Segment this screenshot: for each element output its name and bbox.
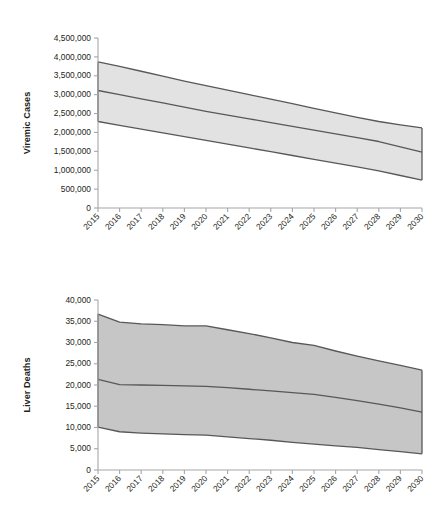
- liver-deaths-x-tick-label: 2027: [340, 473, 360, 493]
- liver-deaths-x-tick-label: 2030: [405, 473, 425, 493]
- liver-deaths-x-axis: 2015201620172018201920202021202220232024…: [81, 470, 425, 494]
- liver-deaths-y-tick-label: 10,000: [65, 422, 91, 432]
- liver-deaths-x-tick-label: 2024: [276, 473, 296, 493]
- liver-deaths-x-tick-label: 2023: [254, 473, 274, 493]
- viremic-cases-plot: [98, 62, 422, 180]
- liver-deaths-x-tick-label: 2016: [103, 473, 123, 493]
- viremic-cases-y-tick-label: 1,500,000: [54, 146, 92, 156]
- liver-deaths-y-tick-label: 20,000: [65, 380, 91, 390]
- viremic-cases-x-tick-label: 2019: [168, 211, 188, 231]
- viremic-cases-x-tick-label: 2016: [103, 211, 123, 231]
- figure-container: 0500,0001,000,0001,500,0002,000,0002,500…: [0, 0, 447, 524]
- viremic-cases-y-tick-label: 4,000,000: [54, 52, 92, 62]
- liver-deaths-y-tick-label: 35,000: [65, 316, 91, 326]
- liver-deaths-y-tick-label: 40,000: [65, 295, 91, 305]
- viremic-cases-y-tick-label: 2,000,000: [54, 127, 92, 137]
- liver-deaths-x-tick-label: 2022: [232, 473, 252, 493]
- viremic-cases-x-tick-label: 2018: [146, 211, 166, 231]
- liver-deaths-x-tick-label: 2021: [211, 473, 231, 493]
- viremic-cases-x-tick-label: 2028: [362, 211, 382, 231]
- viremic-cases-y-tick-label: 1,000,000: [54, 165, 92, 175]
- viremic-cases-x-tick-label: 2026: [319, 211, 339, 231]
- liver-deaths-y-tick-label: 15,000: [65, 401, 91, 411]
- viremic-cases-chart-svg: 0500,0001,000,0001,500,0002,000,0002,500…: [0, 0, 447, 262]
- viremic-cases-x-tick-label: 2022: [232, 211, 252, 231]
- viremic-cases-y-tick-label: 3,500,000: [54, 70, 92, 80]
- liver-deaths-y-tick-label: 5,000: [70, 443, 91, 453]
- viremic-cases-y-tick-label: 0: [86, 203, 91, 213]
- liver-deaths-y-tick-label: 0: [86, 465, 91, 475]
- viremic-cases-x-tick-label: 2023: [254, 211, 274, 231]
- liver-deaths-plot: [98, 314, 422, 454]
- liver-deaths-x-tick-label: 2017: [124, 473, 144, 493]
- liver-deaths-x-tick-label: 2019: [168, 473, 188, 493]
- liver-deaths-x-tick-label: 2018: [146, 473, 166, 493]
- viremic-cases-y-axis: 0500,0001,000,0001,500,0002,000,0002,500…: [54, 33, 98, 213]
- viremic-cases-x-tick-label: 2015: [81, 211, 101, 231]
- liver-deaths-y-axis: 05,00010,00015,00020,00025,00030,00035,0…: [65, 295, 98, 475]
- chart-panel-liver-deaths: 05,00010,00015,00020,00025,00030,00035,0…: [0, 262, 447, 524]
- chart-panel-viremic-cases: 0500,0001,000,0001,500,0002,000,0002,500…: [0, 0, 447, 262]
- viremic-cases-x-tick-label: 2024: [276, 211, 296, 231]
- liver-deaths-chart-svg: 05,00010,00015,00020,00025,00030,00035,0…: [0, 262, 447, 524]
- viremic-cases-x-tick-label: 2025: [297, 211, 317, 231]
- viremic-cases-y-axis-title: Viremic Cases: [22, 92, 32, 155]
- viremic-cases-x-tick-label: 2020: [189, 211, 209, 231]
- viremic-cases-y-tick-label: 500,000: [61, 184, 92, 194]
- viremic-cases-y-tick-label: 3,000,000: [54, 89, 92, 99]
- liver-deaths-y-tick-label: 30,000: [65, 337, 91, 347]
- liver-deaths-x-tick-label: 2015: [81, 473, 101, 493]
- viremic-cases-y-tick-label: 4,500,000: [54, 33, 92, 43]
- liver-deaths-x-tick-label: 2028: [362, 473, 382, 493]
- liver-deaths-x-tick-label: 2025: [297, 473, 317, 493]
- viremic-cases-x-tick-label: 2017: [124, 211, 144, 231]
- viremic-cases-x-tick-label: 2021: [211, 211, 231, 231]
- liver-deaths-x-tick-label: 2020: [189, 473, 209, 493]
- viremic-cases-y-tick-label: 2,500,000: [54, 108, 92, 118]
- liver-deaths-x-tick-label: 2026: [319, 473, 339, 493]
- liver-deaths-y-axis-title: Liver Deaths: [22, 357, 32, 412]
- viremic-cases-x-axis: 2015201620172018201920202021202220232024…: [81, 208, 425, 232]
- viremic-cases-x-tick-label: 2030: [405, 211, 425, 231]
- viremic-cases-x-tick-label: 2027: [340, 211, 360, 231]
- viremic-cases-x-tick-label: 2029: [384, 211, 404, 231]
- liver-deaths-x-tick-label: 2029: [384, 473, 404, 493]
- liver-deaths-y-tick-label: 25,000: [65, 358, 91, 368]
